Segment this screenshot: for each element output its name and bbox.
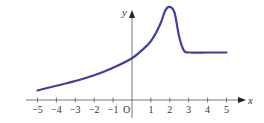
origin-label: O [123, 104, 130, 115]
x-tick-label: 3 [186, 104, 191, 115]
x-axis-label: x [247, 94, 253, 106]
x-tick-label: −3 [70, 104, 81, 115]
y-axis-label: y [121, 6, 127, 18]
x-tick-label: 2 [167, 104, 172, 115]
x-tick-label: 5 [224, 104, 229, 115]
x-tick-label: −1 [108, 104, 119, 115]
x-tick-label: −2 [89, 104, 100, 115]
x-tick-label: 4 [205, 104, 210, 115]
x-tick-label: −5 [32, 104, 43, 115]
x-axis-arrow-icon [238, 97, 246, 103]
x-tick-label: 1 [148, 104, 153, 115]
x-tick-label: −4 [51, 104, 62, 115]
y-axis-arrow-icon [129, 10, 135, 18]
function-graph: x y −5−4−3−2−112345 O [0, 0, 264, 123]
